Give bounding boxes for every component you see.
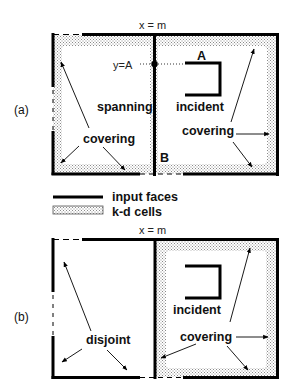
face-label-B: B xyxy=(160,151,169,165)
incident-face-b xyxy=(185,266,220,298)
arrow-covering-left-up xyxy=(61,62,89,128)
legend-kd-cells-label: k-d cells xyxy=(112,205,162,219)
arrow-covering-right-up xyxy=(231,49,254,122)
disjoint-label: disjoint xyxy=(86,333,131,347)
arrow-covering-b-up xyxy=(230,248,250,322)
spanning-label: spanning xyxy=(97,100,153,114)
incident-label-a: incident xyxy=(176,100,225,114)
incident-label-b: incident xyxy=(173,303,222,317)
arrow-disjoint-down-left xyxy=(62,349,82,362)
arrow-covering-b-left xyxy=(161,344,196,358)
diagram-canvas: x = m y=A A B spanning incident covering… xyxy=(0,0,297,390)
arrow-disjoint-up xyxy=(64,262,91,331)
panel-a-label: (a) xyxy=(14,103,29,117)
face-label-A: A xyxy=(197,49,206,63)
intersection-point xyxy=(151,61,157,67)
covering-left-label: covering xyxy=(83,132,135,146)
split-label-a: x = m xyxy=(139,19,166,31)
arrow-covering-b-down xyxy=(227,346,248,370)
covering-label-b: covering xyxy=(180,330,232,344)
panel-b: x = m incident disjoint covering (b) xyxy=(14,224,279,379)
panel-b-label: (b) xyxy=(14,310,29,324)
incident-face-A xyxy=(185,63,220,95)
arrow-covering-left-down xyxy=(61,146,79,163)
arrow-disjoint-down-right xyxy=(107,350,127,370)
arrow-covering-right-down xyxy=(233,142,252,167)
legend-input-faces-label: input faces xyxy=(112,190,178,204)
legend-kd-cells-swatch xyxy=(53,206,103,214)
covering-right-label: covering xyxy=(182,124,234,138)
split-label-b: x = m xyxy=(139,224,166,236)
legend: input faces k-d cells xyxy=(53,190,178,219)
panel-a: x = m y=A A B spanning incident covering… xyxy=(14,19,279,176)
y-equals-A-label: y=A xyxy=(113,59,133,71)
